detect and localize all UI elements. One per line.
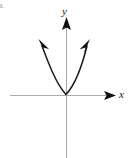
figure-container: x y a. xyxy=(0,0,132,158)
graph-canvas: x y a. xyxy=(0,0,132,158)
parabola-curve xyxy=(42,46,87,95)
x-axis-label: x xyxy=(118,88,124,100)
y-axis-label: y xyxy=(61,5,67,17)
figure-tag: a. xyxy=(0,1,5,10)
